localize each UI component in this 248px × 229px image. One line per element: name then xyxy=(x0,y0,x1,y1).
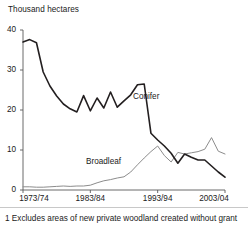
chart-figure: Thousand hectares 0102030401973/741983/8… xyxy=(0,0,248,229)
series-line-conifer xyxy=(23,40,225,178)
series-label-broadleaf: Broadleaf xyxy=(86,158,121,166)
y-axis-tick-label: 20 xyxy=(0,106,16,114)
footnote-text: 1 Excludes areas of new private woodland… xyxy=(5,214,237,224)
y-axis-tick-label: 30 xyxy=(0,66,16,74)
y-axis-tick-label: 10 xyxy=(0,146,16,154)
y-axis-tick-label: 40 xyxy=(0,26,16,34)
series-label-conifer: Conifer xyxy=(133,93,159,101)
x-axis-tick-label: 1973/74 xyxy=(19,195,49,203)
footnote-divider xyxy=(0,207,248,208)
y-axis-tick-label: 0 xyxy=(0,186,16,194)
series-line-broadleaf xyxy=(23,138,225,188)
x-axis-tick-label: 2003/04 xyxy=(199,195,229,203)
x-axis-tick-label: 1993/94 xyxy=(143,195,173,203)
x-axis-tick-label: 1983/84 xyxy=(76,195,106,203)
